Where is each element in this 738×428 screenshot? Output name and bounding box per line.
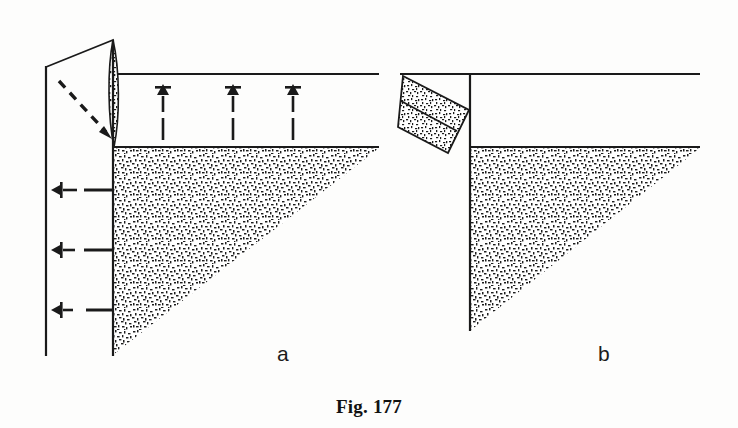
panel-label-a: a (277, 343, 289, 364)
figure-caption: Fig. 177 (0, 396, 738, 418)
panel-a-uplift-arrow-3 (285, 84, 301, 140)
panel-label-b: b (598, 343, 610, 364)
panel-b-group (398, 74, 700, 331)
panel-a-group (46, 40, 379, 356)
figure-drawing-canvas (0, 0, 738, 428)
panel-a-wedge-outline (46, 40, 113, 141)
panel-a-lateral-arrow-1 (51, 182, 112, 198)
panel-a-soil-wedge-triangle (114, 148, 379, 354)
panel-a-lateral-arrow-3 (51, 302, 112, 318)
panel-b-soil-wedge-triangle (471, 148, 700, 330)
figure-container: a b Fig. 177 (0, 0, 738, 428)
panel-a-dashed-rotation-arrow (59, 81, 112, 139)
panel-a-lateral-arrow-2 (51, 242, 112, 258)
panel-a-uplift-arrow-2 (225, 84, 241, 140)
panel-a-uplift-arrow-1 (155, 84, 171, 140)
panel-b-tilted-slab (398, 76, 469, 153)
